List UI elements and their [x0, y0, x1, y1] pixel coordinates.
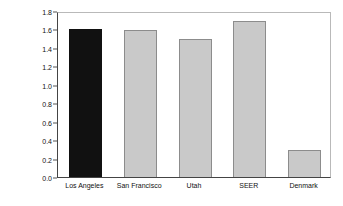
y-tick-label: 1.2	[42, 64, 52, 71]
x-tick-label: Utah	[187, 181, 202, 190]
y-tick-label: 0.6	[42, 119, 52, 126]
plot-frame	[57, 12, 331, 178]
bar	[288, 150, 321, 177]
y-tick-label: 0.8	[42, 101, 52, 108]
plot-area	[58, 13, 330, 177]
x-tick-label: San Francisco	[117, 181, 162, 190]
y-tick-label: 1.4	[42, 45, 52, 52]
y-axis-tick-labels: 0.00.20.40.60.81.01.21.41.61.8	[30, 12, 52, 178]
y-tick-label: 1.8	[42, 9, 52, 16]
bar	[179, 39, 212, 177]
x-tick-label: SEER	[239, 181, 258, 190]
bar	[124, 30, 157, 177]
y-tick-label: 0.2	[42, 156, 52, 163]
x-tick-label: Los Angeles	[65, 181, 103, 190]
y-tick-label: 0.0	[42, 175, 52, 182]
y-tick-label: 0.4	[42, 138, 52, 145]
bar	[69, 29, 102, 177]
bar	[233, 21, 266, 177]
y-tick-label: 1.6	[42, 27, 52, 34]
bar-chart: Annual Incidence (per 100,000) 0.00.20.4…	[0, 0, 343, 206]
x-axis-tick-labels: Los AngelesSan FranciscoUtahSEERDenmark	[57, 181, 331, 197]
y-tick-label: 1.0	[42, 82, 52, 89]
x-tick-label: Denmark	[289, 181, 317, 190]
